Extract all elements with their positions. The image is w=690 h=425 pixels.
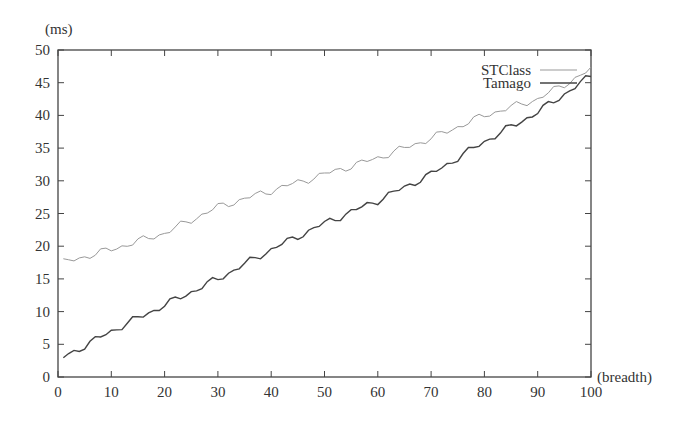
series-stclass: [63, 67, 591, 261]
x-tick-label: 40: [264, 384, 279, 400]
x-tick-label: 60: [370, 384, 385, 400]
y-tick-label: 45: [35, 75, 50, 91]
x-axis-label: (breadth): [597, 369, 652, 386]
x-tick-label: 10: [104, 384, 119, 400]
y-tick-label: 50: [35, 42, 50, 58]
series-tamago: [63, 76, 591, 358]
x-tick-label: 70: [424, 384, 439, 400]
y-tick-label: 15: [35, 271, 50, 287]
y-tick-label: 10: [35, 304, 50, 320]
y-axis-label: (ms): [45, 21, 73, 38]
y-tick-label: 40: [35, 107, 50, 123]
y-tick-label: 5: [43, 336, 51, 352]
x-tick-label: 90: [530, 384, 545, 400]
y-tick-label: 20: [35, 238, 50, 254]
plot-frame: [58, 50, 591, 377]
line-chart: 0102030405060708090100051015202530354045…: [0, 0, 690, 425]
y-tick-label: 0: [43, 369, 51, 385]
y-tick-label: 30: [35, 173, 50, 189]
x-tick-label: 30: [210, 384, 225, 400]
x-tick-label: 100: [580, 384, 603, 400]
y-tick-label: 35: [35, 140, 50, 156]
x-tick-label: 50: [317, 384, 332, 400]
x-tick-label: 20: [157, 384, 172, 400]
y-tick-label: 25: [35, 206, 50, 222]
x-tick-label: 80: [477, 384, 492, 400]
x-tick-label: 0: [54, 384, 62, 400]
legend-label: Tamago: [483, 75, 531, 91]
